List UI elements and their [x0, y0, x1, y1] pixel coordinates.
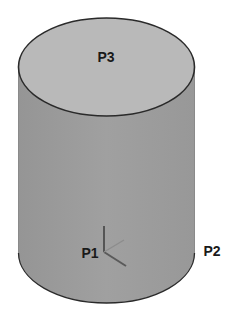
cylinder-top-face: [19, 18, 195, 116]
label-p1: P1: [81, 245, 98, 261]
label-p2: P2: [203, 243, 220, 259]
label-p3: P3: [97, 49, 114, 65]
cylinder-diagram: P3 P1 P2: [0, 0, 236, 328]
